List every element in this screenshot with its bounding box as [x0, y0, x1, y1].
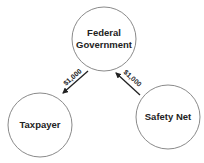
edge-label-safety-net-to-federal: $1,000	[122, 68, 143, 88]
safety-net-label: Safety Net	[145, 111, 192, 122]
node-safety-net: Safety Net	[136, 85, 200, 149]
federal-government-label-line2: Government	[76, 39, 133, 50]
node-taxpayer: Taxpayer	[8, 93, 72, 157]
edge-safety-net-to-federal: $1,000	[116, 68, 143, 95]
money-flow-diagram: Federal Government Taxpayer Safety Net $…	[0, 0, 204, 163]
federal-government-label-line1: Federal	[87, 27, 121, 38]
taxpayer-label: Taxpayer	[19, 119, 60, 130]
edge-federal-to-taxpayer: $1,000	[62, 67, 88, 93]
node-federal-government: Federal Government	[72, 7, 136, 71]
